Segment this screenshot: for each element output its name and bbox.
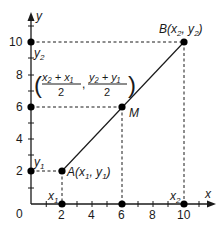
point-b-label: B(x2, y2): [159, 22, 203, 38]
x-axis-arrow-icon: [207, 201, 216, 208]
formula-num-y: y₂ + y₁: [88, 71, 121, 83]
x2-label: x2: [169, 189, 181, 205]
midpoint-diagram: 0 2 4 6 8 10 2 4 6 8 10 x y A(x1, y1) B(…: [0, 0, 224, 228]
y-tick-label-2: 2: [16, 164, 23, 178]
x-tick-labels: 0 2 4 6 8 10: [16, 207, 191, 222]
y-tick-label-6: 6: [16, 100, 23, 114]
formula-comma: ,: [82, 77, 85, 91]
formula-close-paren: ): [128, 71, 136, 98]
y-tick-labels: 2 4 6 8 10: [9, 35, 23, 178]
axes: [31, 18, 210, 204]
y2-label: y2: [33, 46, 45, 62]
formula-open-paren: (: [34, 71, 42, 98]
x-tick-label-4: 4: [88, 208, 95, 222]
y-axis-arrow-icon: [28, 12, 35, 21]
point-m: [118, 103, 125, 110]
point-m-x: [118, 200, 125, 207]
formula-num-x: x₂ + x₁: [41, 71, 74, 83]
midpoint-formula: ( x₂ + x₁ 2 , y₂ + y₁ 2 ): [34, 71, 136, 98]
y-axis-label: y: [35, 9, 43, 23]
point-x1: [58, 200, 65, 207]
x-tick-label-8: 8: [149, 208, 156, 222]
y1-label: y1: [33, 155, 44, 171]
point-a: [58, 167, 65, 174]
x-tick-label-6: 6: [118, 208, 125, 222]
point-x2: [180, 200, 187, 207]
point-a-label: A(x1, y1): [66, 165, 111, 181]
point-b: [180, 38, 187, 45]
x1-label: x1: [47, 189, 58, 205]
point-y2: [27, 38, 34, 45]
y-tick-label-4: 4: [16, 132, 23, 146]
point-m-y: [27, 103, 34, 110]
x-tick-label-10: 10: [177, 208, 191, 222]
x-tick-label-2: 2: [58, 208, 65, 222]
origin-label: 0: [16, 207, 23, 221]
formula-den-y: 2: [104, 86, 110, 98]
y-tick-label-8: 8: [16, 68, 23, 82]
formula-den-x: 2: [58, 86, 64, 98]
point-m-label: M: [129, 106, 139, 120]
y-tick-label-10: 10: [9, 35, 23, 49]
x-axis-label: x: [204, 187, 212, 201]
